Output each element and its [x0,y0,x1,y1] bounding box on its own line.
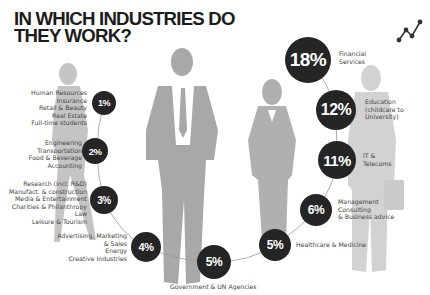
stat-circle-engineering: 2% [82,138,108,164]
stat-circle-advertising: 4% [131,232,161,262]
stat-circle-education: 12% [316,90,356,130]
label-management: Management Consulting & Business advice [338,198,394,221]
title-line-2: THEY WORK? [14,27,235,44]
label-healthcare: Healthcare & Medicine [296,241,366,249]
stat-circle-government: 5% [197,245,231,279]
label-advertising: Advertising, Marketing & Sales Energy Cr… [57,232,127,262]
stat-circle-research: 3% [90,186,118,214]
stat-circle-financial: 18% [285,37,331,83]
stat-circle-healthcare: 5% [259,229,291,261]
label-engineering: Engineering Transportation Food & Bevera… [29,139,82,169]
stat-circle-it-telecoms: 11% [318,141,356,179]
label-education: Education (childcare to University) [365,98,404,121]
stat-circle-management: 6% [300,194,332,226]
label-government: Government & UN Agencies [170,283,257,291]
page-title: IN WHICH INDUSTRIES DO THEY WORK? [14,10,235,44]
label-research: Research (incl. R&D) Manufact. & constru… [9,180,87,226]
label-human-resources: Human Resources Insurance Retail & Beaut… [31,89,87,127]
label-financial: Financial Services [339,50,366,65]
label-it-telecoms: IT & Telecoms [363,152,392,167]
woman-standing-silhouette [248,79,296,245]
line-chart-icon [395,18,425,44]
stat-circle-human-resources: 1% [92,91,116,115]
connector-line [97,60,337,262]
